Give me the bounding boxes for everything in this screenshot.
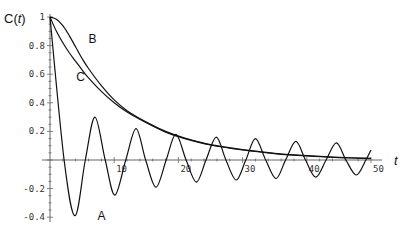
- curve-label-b: B: [89, 32, 97, 46]
- y-axis-title: C(t): [4, 11, 26, 26]
- x-tick-label: 50: [373, 164, 384, 174]
- y-tick-label: 0.6: [29, 69, 45, 79]
- curves: [50, 17, 371, 216]
- y-tick-label: -0.2: [23, 184, 45, 194]
- curve-a: [50, 17, 371, 216]
- y-tick-label: 0.8: [29, 41, 45, 51]
- curve-label-c: C: [76, 70, 85, 84]
- x-axis-title: t: [394, 153, 399, 168]
- y-tick-label: 0.4: [29, 98, 45, 108]
- y-tick-label: -0.4: [23, 212, 45, 222]
- y-tick-label: 0.2: [29, 126, 45, 136]
- correlation-function-chart: 1020304050-0.4-0.20.20.40.60.81 ABC t C(…: [0, 0, 416, 235]
- x-tick-label: 10: [116, 164, 127, 174]
- x-tick-label: 30: [245, 164, 256, 174]
- axes: 1020304050-0.4-0.20.20.40.60.81: [23, 12, 384, 222]
- y-tick-label: 1: [40, 12, 45, 22]
- curve-label-a: A: [98, 209, 106, 223]
- curve-c: [50, 17, 371, 159]
